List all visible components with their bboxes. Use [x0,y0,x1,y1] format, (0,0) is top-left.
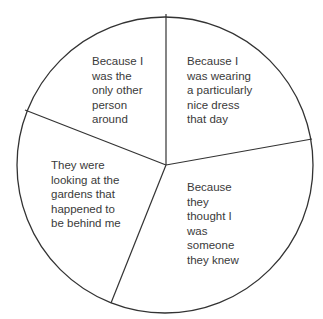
slice-label-only-person: Because I was the only other person arou… [92,54,143,127]
slice-label-gardens: They were looking at the gardens that ha… [51,158,121,231]
slice-label-nice-dress: Because I was wearing a particularly nic… [187,54,252,127]
pie-chart [0,0,323,319]
slice-label-someone-they-knew: Because they thought I was someone they … [187,180,239,267]
